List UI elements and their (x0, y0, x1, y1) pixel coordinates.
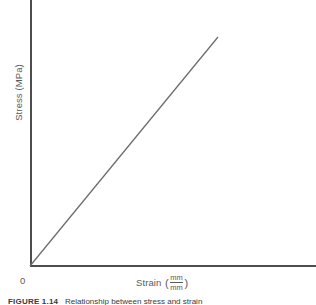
plot-area (0, 0, 316, 305)
figure-caption-number: FIGURE 1.14 (8, 297, 58, 305)
x-axis (30, 265, 316, 267)
figure-caption: FIGURE 1.14 Relationship between stress … (8, 297, 308, 305)
x-axis-unit-fraction: mm mm (170, 274, 184, 291)
x-axis-label-paren-close: ) (184, 277, 188, 289)
origin-label: 0 (20, 275, 25, 286)
x-axis-label-text: Strain (136, 277, 161, 288)
stress-strain-line (30, 37, 218, 266)
x-axis-unit-numerator: mm (170, 274, 184, 282)
x-axis-label: Strain ( mm mm ) (136, 274, 189, 291)
y-axis (30, 0, 32, 267)
figure-container: Stress (MPa) Strain ( mm mm ) 0 FIGURE 1… (0, 0, 316, 305)
y-axis-label: Stress (MPa) (13, 53, 24, 133)
figure-caption-text: Relationship between stress and strain (65, 297, 202, 305)
x-axis-unit-denominator: mm (170, 283, 184, 291)
x-axis-label-paren-open: ( (165, 277, 169, 289)
